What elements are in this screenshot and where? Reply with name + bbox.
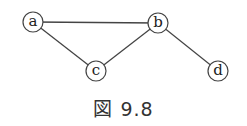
- edge-c-b: [96, 23, 158, 71]
- node-b-label: b: [153, 13, 163, 31]
- edge-a-b: [33, 22, 158, 23]
- node-a-label: a: [29, 12, 38, 30]
- edge-a-c: [33, 22, 96, 71]
- edge-b-d: [158, 23, 218, 71]
- node-a: a: [23, 12, 43, 32]
- node-b: b: [148, 13, 168, 33]
- node-d-label: d: [213, 61, 223, 79]
- figure-caption: 図 9.8: [0, 94, 247, 121]
- node-c-label: c: [92, 61, 100, 79]
- node-c: c: [86, 61, 106, 81]
- node-d: d: [208, 61, 228, 81]
